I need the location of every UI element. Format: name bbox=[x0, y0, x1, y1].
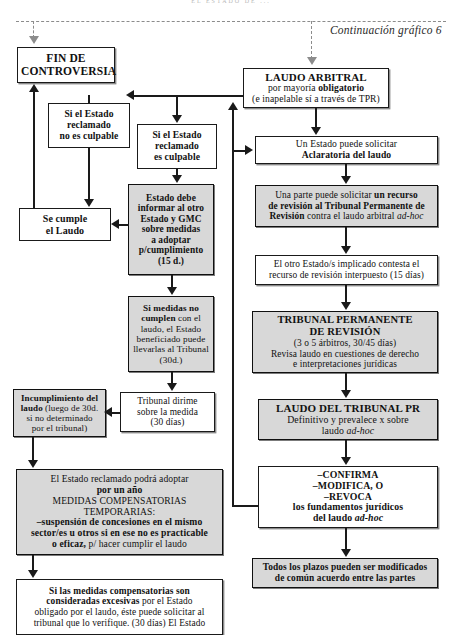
tpr-line5: e interpretaciones jurídicas bbox=[256, 359, 434, 370]
node-medidas-no-cumplen[interactable]: Si medidas no cumplen con el laudo, el E… bbox=[128, 296, 214, 372]
arrow-se-cumple-to-fin bbox=[29, 84, 39, 92]
laudo-pr-line3-i: ad-hoc bbox=[347, 425, 375, 436]
edge-confirma-loop-horizontal bbox=[232, 505, 259, 507]
node-fin-controversia[interactable]: FIN DE CONTROVERSIA bbox=[17, 47, 115, 83]
incumplimiento-rest1: (luego de 30d. bbox=[43, 403, 99, 413]
estado-informar-line5: a adoptar bbox=[132, 235, 210, 246]
edge-drop-to-si-culpable bbox=[176, 95, 178, 116]
node-tribunal-dirime[interactable]: Tribunal dirime sobre la medida (30 días… bbox=[120, 392, 215, 432]
node-laudo-tribunal-pr[interactable]: LAUDO DEL TRIBUNAL PR Definitivo y preva… bbox=[258, 399, 438, 440]
medidas-excesivas-line1: Si las medidas compensatorias son bbox=[20, 586, 219, 597]
medidas-excesivas-line2-b: consideradas excesivas bbox=[46, 596, 139, 606]
edge-laudo-pr-to-confirma bbox=[345, 440, 347, 458]
tpr-line2: DE REVISIÓN bbox=[256, 326, 434, 338]
recurso-revision-l1-r: Una parte puede solicitar bbox=[275, 190, 374, 200]
plazos-line2: de común acuerdo entre las partes bbox=[256, 573, 434, 584]
edge-no-culpable-to-se-cumple bbox=[88, 148, 90, 200]
node-medidas-compensatorias[interactable]: El Estado reclamado podrá adoptar por un… bbox=[16, 469, 223, 555]
recurso-revision-l3-r: contra el laudo arbitral bbox=[305, 211, 397, 221]
estado-informar-line4: sobre medidas bbox=[132, 224, 210, 235]
medidas-no-cumplen-line1: Si medidas no bbox=[132, 303, 210, 313]
estado-informar-line1: Estado debe bbox=[132, 193, 210, 204]
edge-tpr-to-laudo-pr bbox=[345, 373, 347, 391]
medidas-comp-line7-r: p/ hacer cumplir el laudo bbox=[86, 538, 187, 549]
arrow-confirma-to-plazos bbox=[341, 549, 351, 557]
node-recurso-revision[interactable]: Una parte puede solicitar un recurso de … bbox=[255, 185, 438, 227]
estado-informar-line2: informar al otro bbox=[132, 203, 210, 214]
recurso-revision-l1-b: un recurso bbox=[374, 190, 418, 200]
node-se-cumple-laudo[interactable]: Se cumple el Laudo bbox=[19, 208, 111, 241]
medidas-no-cumplen-line5: (30d.) bbox=[132, 355, 210, 365]
node-incumplimiento-laudo[interactable]: Incumplimiento del laudo (luego de 30d. … bbox=[13, 389, 106, 437]
fin-controversia-line2: CONTROVERSIA bbox=[21, 65, 111, 78]
node-aclaratoria-laudo[interactable]: Un Estado puede solicitar Aclaratoria de… bbox=[255, 136, 438, 164]
recurso-revision-line2: de revisión al Tribunal Permanente de bbox=[259, 201, 434, 212]
tpr-line3: (3 o 5 árbitros, 30/45 días) bbox=[256, 338, 434, 349]
arrow-riser-to-aclaratoria bbox=[245, 145, 253, 155]
estado-informar-line6: p/cumplimiento bbox=[132, 245, 210, 256]
plazos-line1: Todos los plazos pueden ser modificados bbox=[256, 562, 434, 573]
recurso-revision-line1: Una parte puede solicitar un recurso bbox=[259, 190, 434, 201]
contesta-recurso-line1: El otro Estado/s implicado contesta el bbox=[259, 259, 434, 270]
medidas-no-cumplen-bold2: cumplen bbox=[141, 313, 175, 323]
recurso-revision-l2-b: de revisión al Tribunal Permanente de bbox=[268, 201, 425, 211]
node-confirma-modifica-revoca[interactable]: –CONFIRMA –MODIFICA, O –REVOCA los funda… bbox=[258, 466, 438, 528]
medidas-comp-line3: MEDIDAS COMPENSATORIAS bbox=[20, 496, 219, 507]
estado-informar-line7: (15 d.) bbox=[132, 256, 210, 267]
confirma-line5: del laudo ad-hoc bbox=[262, 513, 434, 524]
edge-recurso-to-contesta bbox=[345, 227, 347, 247]
edge-confirma-to-plazos bbox=[345, 528, 347, 550]
edge-incumplimiento-to-compensatorias bbox=[32, 437, 34, 461]
dashed-drop-right bbox=[311, 21, 312, 59]
confirma-line2: –MODIFICA, O bbox=[262, 481, 434, 492]
contesta-recurso-line2: recurso de revisión interpuesto (15 días… bbox=[259, 270, 434, 281]
node-si-culpable[interactable]: Si el Estado reclamado es culpable bbox=[137, 124, 217, 169]
arrow-no-culpable-to-se-cumple bbox=[84, 199, 94, 207]
medidas-no-cumplen-bold1: Si medidas no bbox=[143, 303, 199, 313]
continuation-note: Continuación gráfico 6 bbox=[330, 24, 442, 36]
edge-informar-to-se-cumple bbox=[119, 224, 129, 226]
edge-riser-to-aclaratoria bbox=[232, 150, 246, 152]
tpr-line4: Revisa laudo en cuestiones de derecho bbox=[256, 349, 434, 360]
laudo-arbitral-line2-a: por mayoría bbox=[268, 82, 318, 93]
dashed-arrow-to-laudo bbox=[307, 57, 317, 65]
node-si-no-culpable[interactable]: Si el Estado reclamado no es culpable bbox=[48, 103, 130, 148]
node-medidas-excesivas[interactable]: Si las medidas compensatorias son consid… bbox=[16, 579, 223, 635]
incumplimiento-line2: si no determinado bbox=[17, 413, 102, 423]
arrow-contesta-to-tpr bbox=[341, 302, 351, 310]
node-laudo-arbitral[interactable]: LAUDO ARBITRAL por mayoría obligatorio (… bbox=[243, 68, 389, 108]
medidas-excesivas-line4: tribunal que lo verifique. (30 días) El … bbox=[20, 618, 219, 629]
arrow-laudo-pr-to-confirma bbox=[341, 457, 351, 465]
medidas-no-cumplen-line3: beneficiado puede bbox=[132, 334, 210, 344]
medidas-excesivas-line3: obligado por el laudo, éste puede solici… bbox=[20, 607, 219, 618]
tribunal-dirime-line1: Tribunal dirime bbox=[124, 396, 211, 407]
node-contesta-recurso[interactable]: El otro Estado/s implicado contesta el r… bbox=[255, 255, 438, 285]
fin-controversia-line1: FIN DE bbox=[21, 52, 111, 65]
recurso-revision-line3: Revisión contra el laudo arbitral ad-hoc bbox=[259, 211, 434, 222]
medidas-excesivas-line2-r: por el Estado bbox=[139, 596, 192, 606]
incumplimiento-bold1: Incumplimiento del bbox=[21, 393, 98, 403]
edge-laudo-to-left bbox=[134, 95, 243, 97]
node-todos-los-plazos[interactable]: Todos los plazos pueden ser modificados … bbox=[252, 558, 438, 588]
edge-dirime-to-incumplimiento bbox=[112, 412, 121, 414]
confirma-line5-i: ad-hoc bbox=[355, 512, 383, 523]
se-cumple-line2: el Laudo bbox=[23, 225, 107, 236]
incumplimiento-line1: Incumplimiento del bbox=[17, 393, 102, 403]
si-no-culpable-line3: no es culpable bbox=[52, 131, 126, 142]
arrow-medidas-to-tribunal-dirime bbox=[167, 383, 177, 391]
medidas-comp-line7: o eficaz, p/ hacer cumplir el laudo bbox=[20, 539, 219, 550]
arrow-incumplimiento-to-compensatorias bbox=[28, 460, 38, 468]
arrow-laudo-to-aclaratoria bbox=[311, 127, 321, 135]
node-tribunal-permanente-revision[interactable]: TRIBUNAL PERMANENTE DE REVISIÓN (3 o 5 á… bbox=[252, 311, 438, 373]
arrow-laudo-to-left bbox=[126, 90, 134, 100]
edge-drop-to-si-no-culpable bbox=[88, 95, 90, 103]
arrow-compensatorias-to-excesivas bbox=[28, 570, 38, 578]
node-estado-debe-informar[interactable]: Estado debe informar al otro Estado y GM… bbox=[128, 184, 214, 275]
arrow-informar-to-medidas bbox=[167, 287, 177, 295]
estado-informar-line3: Estado y GMC bbox=[132, 214, 210, 225]
medidas-no-cumplen-line1b: cumplen con el bbox=[132, 313, 210, 323]
laudo-arbitral-line3: (e inapelable sí a través de TPR) bbox=[247, 94, 385, 105]
tpr-line1: TRIBUNAL PERMANENTE bbox=[256, 314, 434, 326]
incumplimiento-line3: por el tribunal) bbox=[17, 423, 102, 433]
